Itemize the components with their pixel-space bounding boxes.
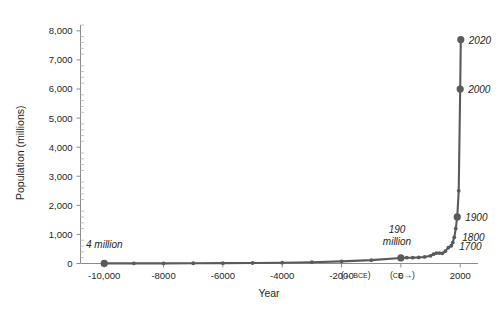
label-1900: 1900 — [465, 212, 488, 223]
data-point — [452, 235, 456, 239]
y-tick-label: 0 — [67, 258, 72, 269]
data-point — [454, 227, 458, 231]
data-point — [251, 261, 255, 265]
data-point — [280, 261, 284, 265]
y-tick-label: 5,000 — [49, 113, 73, 124]
data-point — [411, 256, 415, 260]
x-axis-title: Year — [258, 287, 280, 299]
label-1700: 1700 — [459, 241, 482, 252]
x-tick-label: -8000 — [151, 270, 175, 281]
data-point — [132, 261, 136, 265]
y-tick-label: 3,000 — [49, 171, 73, 182]
ce-paren-close: ) — [412, 270, 415, 280]
y-tick-label: 1,000 — [49, 229, 73, 240]
y-tick-label: 2,000 — [49, 200, 73, 211]
bce-era-label: (←BCE) — [341, 270, 371, 280]
x-tick-label: -6000 — [211, 270, 235, 281]
data-point — [310, 260, 314, 264]
data-point — [451, 241, 455, 245]
ce-text: CE — [393, 272, 403, 279]
bce-text: BCE — [353, 272, 368, 279]
x-tick-label: 2000 — [450, 270, 471, 281]
data-point — [443, 249, 447, 253]
chart-background — [0, 0, 503, 316]
y-tick-label: 8,000 — [49, 25, 73, 36]
data-point — [405, 256, 409, 260]
point-10000bce — [101, 260, 108, 267]
data-point — [369, 258, 373, 262]
point-2020 — [457, 36, 464, 43]
data-point — [191, 261, 195, 265]
annotation-190-million-line2: million — [383, 236, 412, 247]
ce-arrow-icon: → — [404, 270, 413, 280]
bce-arrow-icon: ← — [344, 270, 353, 280]
y-tick-label: 6,000 — [49, 83, 73, 94]
data-point — [457, 189, 461, 193]
data-point — [162, 261, 166, 265]
y-axis-title: Population (millions) — [14, 105, 26, 200]
point-2000 — [457, 85, 464, 92]
annotation-190-million: 190 — [389, 224, 406, 235]
chart-page: 01,0002,0003,0004,0005,0006,0007,0008,00… — [0, 0, 503, 316]
label-2020: 2020 — [468, 35, 492, 46]
point-0ce — [397, 254, 404, 261]
y-axis-tick-labels: 01,0002,0003,0004,0005,0006,0007,0008,00… — [49, 25, 73, 269]
data-point — [221, 261, 225, 265]
population-line-chart: 01,0002,0003,0004,0005,0006,0007,0008,00… — [0, 0, 503, 316]
bce-paren-close: ) — [368, 270, 371, 280]
ce-era-label: (CE→) — [390, 270, 415, 280]
y-tick-label: 7,000 — [49, 54, 73, 65]
x-tick-label: -10,000 — [88, 270, 120, 281]
data-point — [340, 260, 344, 264]
x-tick-label: -4000 — [270, 270, 294, 281]
annotation-4-million: 4 million — [86, 239, 123, 250]
label-2000: 2000 — [467, 84, 491, 95]
point-1900 — [454, 213, 461, 220]
data-point — [417, 255, 421, 259]
y-tick-label: 4,000 — [49, 142, 73, 153]
data-point — [423, 255, 427, 259]
